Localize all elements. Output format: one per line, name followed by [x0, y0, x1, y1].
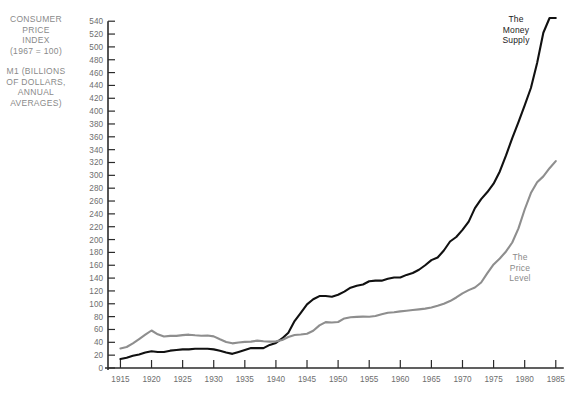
- y-tick-label: 80: [94, 313, 104, 322]
- y-tick-label: 400: [89, 107, 103, 116]
- y-tick-label: 320: [89, 158, 103, 167]
- y-tick-label: 480: [89, 56, 103, 65]
- x-tick-label: 1985: [547, 375, 566, 384]
- series-layer: [120, 18, 555, 359]
- y-tick-label: 520: [89, 30, 103, 39]
- y-tick-label: 420: [89, 94, 103, 103]
- x-tick-label: 1920: [142, 375, 161, 384]
- x-tick-label: 1945: [298, 375, 317, 384]
- x-tick-label: 1935: [236, 375, 255, 384]
- y-tick-label: 540: [89, 17, 103, 26]
- x-tick-label: 1955: [360, 375, 379, 384]
- y-tick-label: 120: [89, 287, 103, 296]
- x-tick-label: 1980: [516, 375, 535, 384]
- y-tick-label: 180: [89, 248, 103, 257]
- y-tick-label: 20: [94, 351, 104, 360]
- x-tick-label: 1925: [174, 375, 193, 384]
- y-tick-label: 280: [89, 184, 103, 193]
- x-tick-label: 1915: [111, 375, 130, 384]
- y-tick-label: 160: [89, 261, 103, 270]
- x-tick-label: 1930: [205, 375, 224, 384]
- x-tick-label: 1975: [484, 375, 503, 384]
- y-tick-label: 300: [89, 171, 103, 180]
- x-tick-label: 1960: [391, 375, 410, 384]
- y-tick-label: 240: [89, 210, 103, 219]
- y-axis: 0204060801001201401601802002202402602803…: [89, 17, 115, 373]
- y-tick-label: 380: [89, 120, 103, 129]
- y-tick-label: 220: [89, 223, 103, 232]
- x-tick-label: 1940: [267, 375, 286, 384]
- y-tick-label: 140: [89, 274, 103, 283]
- series-line-the-money-supply: [120, 18, 555, 359]
- y-tick-label: 360: [89, 133, 103, 142]
- y-tick-label: 440: [89, 81, 103, 90]
- x-tick-label: 1970: [453, 375, 472, 384]
- y-tick-label: 200: [89, 236, 103, 245]
- y-tick-label: 260: [89, 197, 103, 206]
- x-tick-label: 1950: [329, 375, 348, 384]
- y-tick-label: 100: [89, 300, 103, 309]
- y-tick-label: 40: [94, 338, 104, 347]
- x-axis: 1915192019251930193519401945195019551960…: [105, 360, 565, 384]
- y-tick-label: 500: [89, 43, 103, 52]
- y-tick-label: 460: [89, 69, 103, 78]
- chart-container: CONSUMER PRICE INDEX (1967 = 100) M1 (BI…: [0, 0, 573, 398]
- y-tick-label: 340: [89, 146, 103, 155]
- x-tick-label: 1965: [422, 375, 441, 384]
- chart-plot-area: 0204060801001201401601802002202402602803…: [0, 0, 573, 398]
- y-tick-label: 0: [98, 364, 103, 373]
- y-tick-label: 60: [94, 325, 104, 334]
